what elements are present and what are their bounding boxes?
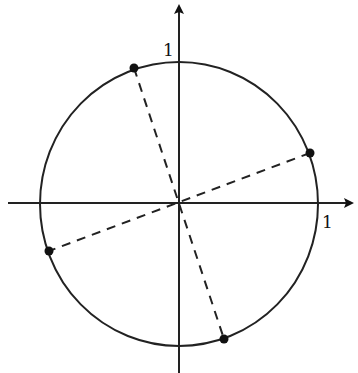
point-right <box>306 149 315 158</box>
y-axis-label: 1 <box>163 40 174 60</box>
point-left <box>45 247 54 256</box>
x-axis-label: 1 <box>322 212 333 232</box>
point-upper-left <box>130 64 139 73</box>
unit-circle-diagram: 1 1 <box>0 0 358 373</box>
point-lower-right <box>220 335 229 344</box>
